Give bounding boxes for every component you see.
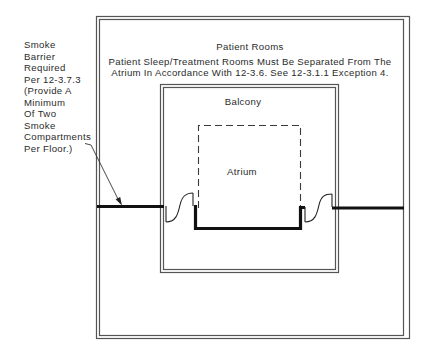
callout-line: Required <box>24 62 91 74</box>
callout-line: Per 12-3.7.3 <box>24 74 91 86</box>
balcony-boundary <box>161 85 339 273</box>
callout-line: Compartments <box>24 131 91 143</box>
smoke-door-left <box>166 193 193 222</box>
separation-note-line-2: Atrium In Accordance With 12-3.6. See 12… <box>109 67 392 78</box>
atrium-label: Atrium <box>227 166 257 178</box>
callout-line: Minimum <box>24 97 91 109</box>
smoke-door-right <box>305 194 332 222</box>
callout-line: Of Two <box>24 108 91 120</box>
callout-line: Per Floor.) <box>24 143 91 155</box>
callout-line: Smoke <box>24 39 91 51</box>
balcony-label: Balcony <box>225 96 262 108</box>
separation-note-line-1: Patient Sleep/Treatment Rooms Must Be Se… <box>109 56 392 67</box>
arrowhead-icon <box>116 197 122 206</box>
smoke-barrier <box>97 205 404 229</box>
callout-line: Barrier <box>24 51 91 63</box>
smoke-barrier-callout: Smoke Barrier Required Per 12-3.7.3 (Pro… <box>24 39 91 154</box>
patient-rooms-label: Patient Rooms <box>216 41 283 53</box>
callout-line: (Provide A <box>24 85 91 97</box>
callout-line: Smoke <box>24 120 91 132</box>
separation-note: Patient Sleep/Treatment Rooms Must Be Se… <box>109 56 392 79</box>
